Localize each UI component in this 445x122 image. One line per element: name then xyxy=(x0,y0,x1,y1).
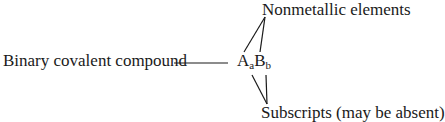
connector-lines xyxy=(0,0,412,117)
